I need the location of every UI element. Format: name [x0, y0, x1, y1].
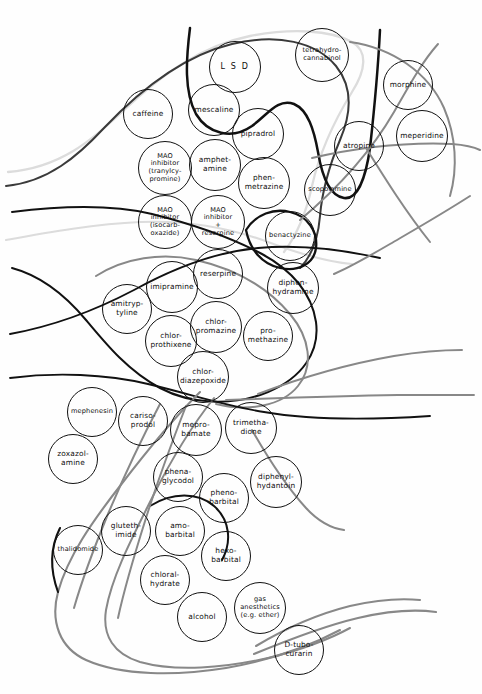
- drug-node-label-d_tubocurarin: D-tubo- curarin: [283, 641, 314, 658]
- drug-node-promethazine[interactable]: pro- methazine: [243, 311, 293, 361]
- drug-node-label-caffeine: caffeine: [132, 110, 165, 119]
- drug-node-label-trimethadione: trimetha- dione: [232, 419, 270, 436]
- drug-node-atropine[interactable]: atropine: [334, 121, 384, 171]
- drug-node-phenobarbital[interactable]: pheno- barbital: [199, 473, 249, 523]
- drug-node-benactyzine[interactable]: benactyzine: [265, 211, 315, 261]
- drug-node-label-lsd: L S D: [220, 63, 251, 72]
- drug-node-label-mescaline: mescaline: [194, 106, 235, 115]
- drug-node-morphine[interactable]: morphine: [383, 60, 433, 110]
- drug-node-trimethadione[interactable]: trimetha- dione: [225, 402, 277, 454]
- drug-node-amphetamine[interactable]: amphet- amine: [189, 139, 241, 191]
- curve-mid-right-tail: [258, 350, 462, 394]
- drug-node-diphenylhydantoin[interactable]: diphenyl- hydantoin: [250, 456, 302, 508]
- drug-node-label-diphenylhydantoin: diphenyl- hydantoin: [256, 473, 296, 490]
- drug-node-label-meperidine: meperidine: [399, 132, 445, 141]
- curve-mid-right-flat: [226, 395, 474, 400]
- drug-node-label-reserpine: reserpine: [199, 270, 237, 279]
- drug-node-label-chloralhydrate: chloral- hydrate: [149, 571, 181, 588]
- drug-node-label-phenobarbital: pheno- barbital: [208, 489, 240, 506]
- drug-node-scopolamine[interactable]: scopolamine: [304, 164, 356, 216]
- drug-node-label-chlorpromazine: chlor- promazine: [195, 318, 237, 335]
- drug-node-label-benactyzine: benactyzine: [268, 232, 312, 240]
- drug-node-chloralhydrate[interactable]: chloral- hydrate: [140, 555, 190, 605]
- drug-node-pipradrol[interactable]: pipradrol: [232, 108, 284, 160]
- drug-node-label-promethazine: pro- methazine: [247, 327, 289, 344]
- drug-node-gas_anesthetics[interactable]: gas anesthetics (e.g. ether): [234, 582, 286, 634]
- drug-node-label-imipramine: imipramine: [149, 283, 195, 292]
- drug-node-label-diphenhydramine: diphen- hydramine: [271, 279, 314, 296]
- drug-node-label-phenmetrazine: phen- metrazine: [244, 174, 285, 191]
- drug-node-label-mao_reserpine: MAO inhibitor + reserpine: [201, 207, 235, 238]
- drug-node-carisoprodol[interactable]: cariso- prodol: [118, 396, 168, 446]
- drug-node-label-alcohol: alcohol: [187, 613, 216, 622]
- drug-node-glutethimide[interactable]: gluteth- imide: [101, 506, 151, 556]
- drug-node-label-glutethimide: gluteth- imide: [110, 522, 142, 539]
- drug-node-label-chlordiazepoxide: chlor- diazepoxide: [179, 368, 227, 385]
- drug-node-label-amobarbital: amo- barbital: [164, 522, 196, 539]
- drug-node-caffeine[interactable]: caffeine: [123, 89, 173, 139]
- drug-node-mao_reserpine[interactable]: MAO inhibitor + reserpine: [191, 195, 245, 249]
- drug-node-label-pipradrol: pipradrol: [240, 130, 277, 139]
- drug-node-label-meprobamate: mepro- bamate: [180, 421, 211, 438]
- drug-node-thalidomide[interactable]: thalidomide: [53, 525, 103, 575]
- drug-node-label-thalidomide: thalidomide: [57, 546, 100, 554]
- drug-classification-diagram: L S Dtetrahydro- cannabinolmorphinecaffe…: [0, 0, 482, 694]
- drug-node-label-carisoprodol: cariso- prodol: [129, 412, 157, 429]
- drug-node-chlorpromazine[interactable]: chlor- promazine: [190, 301, 242, 353]
- drug-node-phenmetrazine[interactable]: phen- metrazine: [238, 157, 290, 209]
- curve-right-crossing: [334, 196, 470, 274]
- drug-node-imipramine[interactable]: imipramine: [146, 261, 198, 313]
- drug-node-label-mao_tranyl: MAO inhibitor (tranylcy- promine): [147, 153, 182, 184]
- drug-node-label-chlorprothixene: chlor- prothixene: [149, 332, 192, 349]
- drug-node-label-morphine: morphine: [389, 81, 428, 90]
- drug-node-label-atropine: atropine: [342, 142, 376, 151]
- drug-node-chlordiazepoxide[interactable]: chlor- diazepoxide: [177, 351, 229, 403]
- drug-node-label-mephenesin: mephenesin: [70, 408, 114, 416]
- drug-node-label-thc: tetrahydro- cannabinol: [302, 47, 343, 62]
- drug-node-phenaglycodol[interactable]: phena- glycodol: [153, 452, 203, 502]
- drug-node-amitryptyline[interactable]: amitryp- tyline: [102, 284, 152, 334]
- drug-node-alcohol[interactable]: alcohol: [177, 592, 227, 642]
- drug-node-reserpine[interactable]: reserpine: [193, 249, 243, 299]
- drug-node-d_tubocurarin[interactable]: D-tubo- curarin: [274, 625, 324, 675]
- drug-node-label-hexobarbital: hexo- barbital: [210, 547, 242, 564]
- drug-node-label-amphetamine: amphet- amine: [198, 156, 232, 173]
- drug-node-label-gas_anesthetics: gas anesthetics (e.g. ether): [239, 596, 281, 619]
- drug-node-meperidine[interactable]: meperidine: [396, 110, 448, 162]
- drug-node-hexobarbital[interactable]: hexo- barbital: [201, 531, 251, 581]
- drug-node-label-amitryptyline: amitryp- tyline: [110, 300, 145, 317]
- drug-node-label-zoxazolamine: zoxazol- amine: [56, 450, 89, 467]
- drug-node-mephenesin[interactable]: mephenesin: [67, 387, 117, 437]
- drug-node-mao_isocarb[interactable]: MAO inhibitor (isocarb- oxazide): [138, 195, 192, 249]
- drug-node-zoxazolamine[interactable]: zoxazol- amine: [48, 434, 98, 484]
- drug-node-thc[interactable]: tetrahydro- cannabinol: [295, 28, 349, 82]
- drug-node-diphenhydramine[interactable]: diphen- hydramine: [267, 262, 319, 314]
- drug-node-label-phenaglycodol: phena- glycodol: [161, 468, 195, 485]
- drug-node-amobarbital[interactable]: amo- barbital: [155, 506, 205, 556]
- drug-node-meprobamate[interactable]: mepro- bamate: [170, 404, 222, 456]
- drug-node-mao_tranyl[interactable]: MAO inhibitor (tranylcy- promine): [138, 141, 192, 195]
- drug-node-label-mao_isocarb: MAO inhibitor (isocarb- oxazide): [149, 207, 181, 238]
- drug-node-label-scopolamine: scopolamine: [307, 186, 352, 194]
